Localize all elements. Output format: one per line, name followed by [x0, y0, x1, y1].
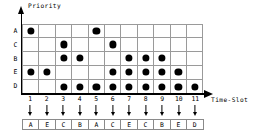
- data-point-dot: [126, 55, 133, 62]
- grid-cell-C-1: [22, 38, 39, 52]
- assignment-cell-2: E: [39, 120, 55, 129]
- down-arrow-icon-1: [22, 105, 39, 117]
- grid-cell-C-7: [121, 38, 137, 52]
- chart-grid: [22, 24, 204, 94]
- arrow-head: [28, 112, 32, 116]
- grid-cell-B-6: [105, 52, 121, 66]
- x-axis-label-9: 9: [154, 96, 171, 103]
- down-arrow-icon-5: [88, 105, 105, 117]
- data-point-dot: [175, 83, 182, 90]
- data-point-dot: [109, 41, 116, 48]
- down-arrow-icon-2: [39, 105, 56, 117]
- assignment-cell-9: B: [154, 120, 170, 129]
- x-axis-label-5: 5: [88, 96, 105, 103]
- grid-cell-E-1: [22, 66, 39, 80]
- grid-cell-A-1: [22, 24, 39, 38]
- arrow-head: [193, 112, 197, 116]
- data-point-dot: [76, 83, 83, 90]
- grid-cell-D-2: [39, 80, 55, 94]
- grid-cell-E-6: [105, 66, 121, 80]
- x-axis-label-11: 11: [187, 96, 204, 103]
- grid-cell-E-3: [56, 66, 72, 80]
- data-point-dot: [60, 41, 67, 48]
- y-axis-label-A: A: [11, 28, 20, 34]
- grid-cell-E-9: [154, 66, 170, 80]
- grid-cell-A-8: [138, 24, 154, 38]
- x-axis-label-8: 8: [138, 96, 155, 103]
- grid-row-E: [22, 66, 204, 80]
- grid-cell-B-4: [72, 52, 88, 66]
- grid-cell-A-5: [89, 24, 105, 38]
- grid-cell-C-4: [72, 38, 88, 52]
- data-point-dot: [158, 55, 165, 62]
- assignment-cell-7: E: [121, 120, 137, 129]
- data-point-dot: [158, 83, 165, 90]
- priority-timeslot-chart: Priority Time-Slot ACBED 1234567891011 A…: [0, 0, 262, 133]
- grid-cell-D-4: [72, 80, 88, 94]
- assignment-cell-1: A: [23, 120, 39, 129]
- grid-cell-D-9: [154, 80, 170, 94]
- data-point-dot: [27, 69, 34, 76]
- x-axis-label-2: 2: [39, 96, 56, 103]
- grid-cell-E-11: [187, 66, 203, 80]
- x-axis-arrowhead-icon: [204, 90, 213, 98]
- grid-cell-A-11: [187, 24, 203, 38]
- assignment-arrows: [22, 105, 204, 117]
- x-axis-label-10: 10: [171, 96, 188, 103]
- y-axis-arrowhead-icon: [18, 6, 24, 14]
- assignment-cell-8: C: [138, 120, 154, 129]
- y-axis-label-D: D: [11, 83, 20, 89]
- data-point-dot: [142, 69, 149, 76]
- grid-cell-B-10: [171, 52, 187, 66]
- grid-row-C: [22, 38, 204, 52]
- grid-cell-D-3: [56, 80, 72, 94]
- grid-cell-D-5: [89, 80, 105, 94]
- grid-cell-C-9: [154, 38, 170, 52]
- grid-cell-A-6: [105, 24, 121, 38]
- grid-cell-E-5: [89, 66, 105, 80]
- arrow-head: [127, 112, 131, 116]
- down-arrow-icon-6: [105, 105, 122, 117]
- arrow-head: [78, 112, 82, 116]
- data-point-dot: [93, 27, 100, 34]
- down-arrow-icon-11: [187, 105, 204, 117]
- arrow-head: [61, 112, 65, 116]
- grid-cell-E-2: [39, 66, 55, 80]
- grid-cell-C-6: [105, 38, 121, 52]
- y-axis-title: Priority: [28, 2, 61, 9]
- data-point-dot: [60, 55, 67, 62]
- grid-cell-B-1: [22, 52, 39, 66]
- arrow-head: [94, 112, 98, 116]
- down-arrow-icon-3: [55, 105, 72, 117]
- grid-cell-B-11: [187, 52, 203, 66]
- grid-row-D: [22, 80, 204, 94]
- data-point-dot: [158, 69, 165, 76]
- grid-cell-A-10: [171, 24, 187, 38]
- data-point-dot: [109, 69, 116, 76]
- data-point-dot: [60, 83, 67, 90]
- y-axis-label-B: B: [11, 56, 20, 62]
- grid-cell-B-5: [89, 52, 105, 66]
- data-point-dot: [142, 83, 149, 90]
- data-point-dot: [191, 83, 198, 90]
- grid-cell-A-3: [56, 24, 72, 38]
- grid-cell-E-7: [121, 66, 137, 80]
- y-axis-label-E: E: [11, 69, 20, 75]
- assignment-cell-3: C: [56, 120, 72, 129]
- grid-cell-A-7: [121, 24, 137, 38]
- assignment-cell-10: E: [171, 120, 187, 129]
- x-axis-title: Time-Slot: [211, 96, 248, 103]
- arrow-head: [45, 112, 49, 116]
- grid-cell-D-8: [138, 80, 154, 94]
- grid-cell-C-5: [89, 38, 105, 52]
- down-arrow-icon-4: [72, 105, 89, 117]
- grid-row-B: [22, 52, 204, 66]
- down-arrow-icon-8: [138, 105, 155, 117]
- assignment-cell-11: D: [187, 120, 202, 129]
- grid-cell-A-2: [39, 24, 55, 38]
- data-point-dot: [109, 83, 116, 90]
- grid-cell-B-9: [154, 52, 170, 66]
- assignment-row: AECBACECBED: [22, 119, 204, 130]
- grid-cell-B-8: [138, 52, 154, 66]
- grid-cell-D-1: [22, 80, 39, 94]
